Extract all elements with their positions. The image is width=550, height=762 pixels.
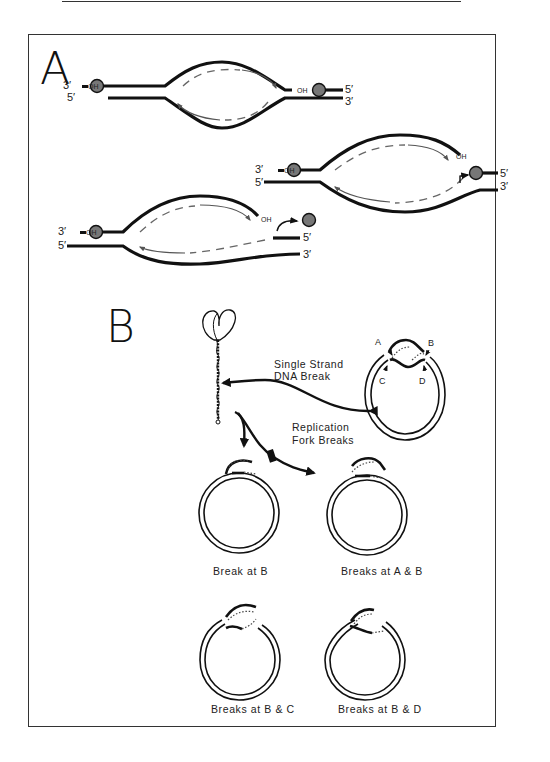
fork1-right-5prime: 5′	[345, 83, 353, 95]
fork2-right-oh: OH	[456, 153, 467, 160]
circle-breaks-at-b-and-c	[200, 605, 280, 700]
fork3-left-oh: OH	[86, 229, 97, 236]
site-d-label: D	[419, 376, 426, 386]
fork2-left-oh: OH	[284, 167, 295, 174]
fork1-right-oh: OH	[297, 87, 308, 94]
replication-bubble-1	[82, 62, 343, 128]
circle-break-at-b	[199, 460, 279, 553]
site-c-label: C	[379, 376, 386, 386]
fork1-left-oh: OH	[88, 83, 99, 90]
fork2-right-5prime: 5′	[500, 167, 508, 179]
panel-b-label: B	[106, 301, 135, 352]
fork1-left-5prime: 5′	[67, 91, 75, 103]
replication-diagram: A 3′ OH 5′ OH 5′ 3′ 3′ OH 5′ OH 5′ 3′	[0, 0, 550, 762]
caption-breaks-at-b-and-d: Breaks at B & D	[338, 703, 422, 715]
phage-genome-icon	[203, 310, 236, 424]
replication-bubble-2	[264, 135, 498, 212]
circle-breaks-at-a-and-b	[327, 458, 407, 555]
fork1-right-3prime: 3′	[345, 95, 353, 107]
fork3-right-oh: OH	[261, 216, 272, 223]
single-strand-label-line1: Single Strand	[274, 358, 344, 370]
caption-breaks-at-a-and-b: Breaks at A & B	[341, 565, 423, 577]
replication-bubble-3	[67, 196, 316, 264]
caption-breaks-at-b-and-c: Breaks at B & C	[211, 703, 295, 715]
protein-bead-icon	[313, 84, 326, 97]
fork3-left-3prime: 3′	[58, 225, 66, 237]
protein-bead-icon	[470, 167, 483, 180]
fork3-right-5prime: 5′	[303, 231, 311, 243]
caption-break-at-b: Break at B	[213, 565, 268, 577]
site-b-label: B	[428, 338, 434, 348]
fork2-left-5prime: 5′	[255, 176, 263, 188]
replication-label-line2: Fork Breaks	[292, 434, 354, 446]
nicked-circle	[365, 340, 445, 440]
block-icon	[266, 449, 276, 463]
fork3-right-3prime: 3′	[303, 248, 311, 260]
fork1-left-3prime: 3′	[63, 79, 71, 91]
protein-bead-icon	[303, 214, 316, 227]
site-a-label: A	[375, 337, 381, 347]
circle-breaks-at-b-and-d	[325, 609, 405, 700]
fork3-left-5prime: 5′	[58, 239, 66, 251]
fork2-left-3prime: 3′	[255, 163, 263, 175]
fork2-right-3prime: 3′	[500, 180, 508, 192]
single-strand-arrow	[223, 380, 370, 411]
replication-label-line1: Replication	[292, 421, 349, 433]
single-strand-label-line2: DNA Break	[274, 370, 331, 382]
